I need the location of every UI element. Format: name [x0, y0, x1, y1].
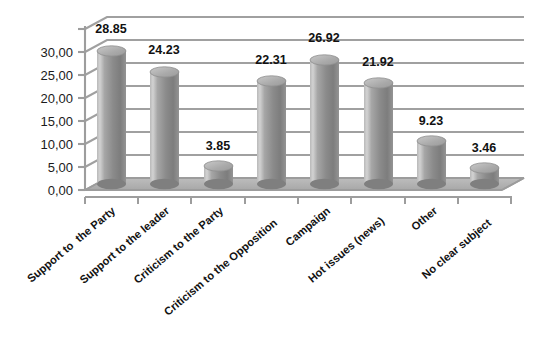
bar-group: 21.92: [362, 55, 393, 189]
chart-svg: 30,00 25,00 20,00 15,00 10,00 5,00 0,00: [0, 0, 534, 347]
bar-group: 9.23: [417, 114, 446, 189]
bar-value-label: 21.92: [362, 55, 393, 69]
bar-value-label: 26.92: [308, 31, 339, 45]
bar-value-label: 3.46: [472, 141, 496, 155]
bar-group: 22.31: [255, 53, 286, 189]
y-tick-label: 20,00: [40, 91, 73, 106]
y-tick-label: 0,00: [48, 183, 73, 198]
y-tick-labels: 30,00 25,00 20,00 15,00 10,00 5,00 0,00: [40, 45, 73, 198]
x-category-labels: Support to the Party Support to the lead…: [25, 204, 494, 318]
category-label: Support to the leader: [77, 204, 171, 286]
x-axis: [85, 197, 512, 204]
bar-value-label: 22.31: [255, 53, 286, 67]
bar-chart-3d: 30,00 25,00 20,00 15,00 10,00 5,00 0,00: [0, 0, 534, 347]
bar-value-label: 24.23: [148, 43, 179, 57]
y-tick-label: 15,00: [40, 114, 73, 129]
bar-value-label: 9.23: [419, 114, 443, 128]
y-tick-label: 5,00: [48, 160, 73, 175]
category-label: Other: [409, 204, 440, 233]
category-label: Campaign: [283, 204, 332, 248]
bar-group: 3.46: [470, 141, 499, 189]
bar-value-label: 3.85: [206, 139, 230, 153]
y-tick-label: 25,00: [40, 68, 73, 83]
category-label: Support to the Party: [25, 204, 118, 285]
bar-value-label: 28.85: [95, 22, 126, 36]
category-label: No clear subject: [419, 216, 493, 281]
bar-group: 3.85: [204, 139, 233, 189]
y-tick-label: 10,00: [40, 137, 73, 152]
bar-group: 28.85: [95, 22, 126, 189]
y-tick-label: 30,00: [40, 45, 73, 60]
bar-group: 24.23: [148, 43, 179, 189]
category-label: Criticism to the Opposition: [162, 216, 280, 318]
bar-group: 26.92: [308, 31, 339, 189]
y-axis: [78, 26, 85, 191]
